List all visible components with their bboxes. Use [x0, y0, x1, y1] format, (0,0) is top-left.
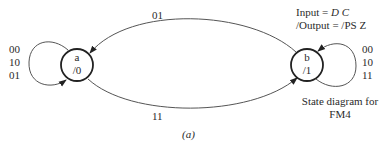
transition-a-to-b	[88, 78, 297, 108]
legend-input: Input = D C	[296, 6, 349, 18]
legend-input-value: D C	[331, 6, 349, 18]
transition-b-to-a	[90, 19, 296, 53]
caption-line-2: FM4	[300, 108, 380, 120]
self-loop-a-label-3: 01	[9, 69, 20, 81]
self-loop-b-label-2: 10	[362, 56, 373, 68]
legend-output: /Output = /PS Z	[296, 19, 366, 31]
self-loop-a-label-1: 00	[9, 43, 20, 55]
figure-label: (a)	[182, 128, 195, 140]
transition-a-to-b-label: 11	[152, 110, 163, 122]
state-a-output: /0	[67, 64, 87, 76]
legend-input-eq: =	[322, 6, 328, 18]
self-loop-b-label-1: 00	[362, 43, 373, 55]
caption-line-1: State diagram for	[300, 95, 380, 107]
legend-output-eq: =	[332, 19, 338, 31]
state-b-name: b	[297, 51, 317, 63]
self-loop-b-label-3: 11	[362, 69, 373, 81]
self-loop-a-label-2: 10	[9, 56, 20, 68]
legend-output-value: /PS Z	[341, 19, 366, 31]
transition-b-to-a-label: 01	[152, 9, 163, 21]
legend-output-label: /Output	[296, 19, 330, 31]
legend-input-label: Input	[296, 6, 319, 18]
state-a-name: a	[67, 51, 87, 63]
state-b-output: /1	[297, 64, 317, 76]
